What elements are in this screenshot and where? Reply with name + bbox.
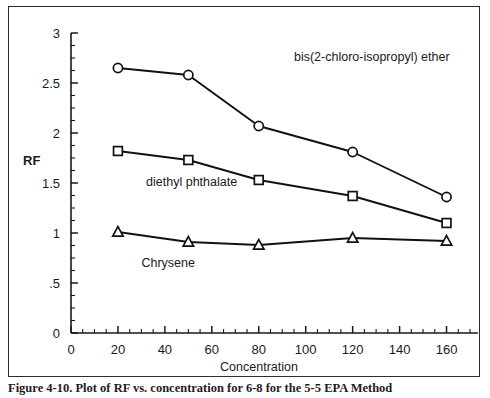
y-tick-label: 0 [53,326,60,341]
series-label-2: diethyl phthalate [146,175,237,189]
x-tick-label: 80 [252,342,266,357]
y-tick-label: 1.5 [42,176,60,191]
marker-square [254,176,263,185]
marker-circle [254,121,263,130]
x-tick-label: 0 [67,342,74,357]
series-label-3: Chrysene [141,256,195,270]
x-axis-title: Concentration [220,360,298,374]
x-tick-label: 20 [111,342,125,357]
y-tick-label: 2 [53,126,60,141]
y-axis-ticks [71,33,78,333]
caption-text: Figure 4-10. Plot of RF vs. concentratio… [8,382,480,395]
figure-root: 0.511.522.53 020406080100120140160 RF Co… [0,0,490,398]
series-label-1: bis(2-chloro-isopropyl) ether [294,50,450,64]
y-axis-tick-labels: 0.511.522.53 [42,26,60,341]
series-3 [113,227,452,250]
marker-square [348,192,357,201]
y-axis-title: RF [23,153,40,168]
y-tick-label: 2.5 [42,76,60,91]
x-tick-label: 160 [436,342,458,357]
x-axis-ticks [71,326,470,333]
y-tick-label: .5 [49,276,60,291]
chart-frame: 0.511.522.53 020406080100120140160 RF Co… [8,6,480,377]
x-axis-tick-labels: 020406080100120140160 [67,342,457,357]
marker-circle [184,70,193,79]
marker-circle [113,63,122,72]
marker-triangle [113,227,123,237]
x-tick-label: 100 [295,342,317,357]
x-tick-label: 120 [342,342,364,357]
y-tick-label: 3 [53,26,60,41]
series-line [118,232,447,245]
y-tick-label: 1 [53,226,60,241]
x-tick-label: 60 [205,342,219,357]
figure-caption: Figure 4-10. Plot of RF vs. concentratio… [8,381,480,398]
data-series-layer [113,63,452,249]
x-tick-label: 140 [389,342,411,357]
marker-square [442,219,451,228]
marker-circle [442,192,451,201]
marker-square [184,156,193,165]
line-chart: 0.511.522.53 020406080100120140160 RF Co… [9,7,478,375]
marker-circle [348,147,357,156]
x-tick-label: 40 [158,342,172,357]
marker-square [114,147,123,156]
